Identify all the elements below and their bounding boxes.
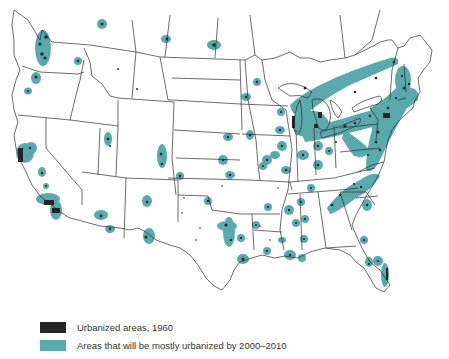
- legend: Urbanized areas, 1960 Areas that will be…: [40, 318, 287, 354]
- legend-item-2000-2010: Areas that will be mostly urbanized by 2…: [40, 336, 287, 354]
- legend-item-1960: Urbanized areas, 1960: [40, 318, 287, 336]
- us-urbanization-map: [0, 0, 449, 300]
- legend-label: Areas that will be mostly urbanized by 2…: [77, 340, 287, 351]
- legend-swatch-teal: [40, 340, 66, 351]
- legend-swatch-black: [40, 322, 66, 333]
- legend-label: Urbanized areas, 1960: [77, 322, 173, 333]
